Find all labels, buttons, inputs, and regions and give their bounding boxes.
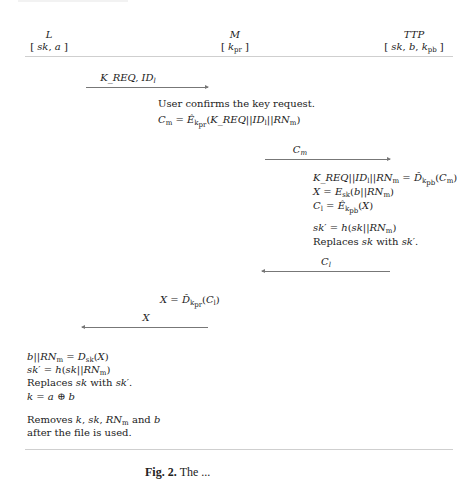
message-1-label: K_REQ, IDl xyxy=(100,72,156,83)
message-3-label: Cl xyxy=(321,256,331,267)
footer-rule xyxy=(25,449,453,450)
message-4-arrow xyxy=(82,327,208,328)
party-l: L [ sk, a ] xyxy=(30,29,68,53)
party-m-keys: [ kpr ] xyxy=(221,41,249,53)
party-ttp-name: TTP xyxy=(384,29,444,41)
message-2-label: Cm xyxy=(293,144,307,155)
l-step2-line1: Removes k, sk, RNm and b xyxy=(27,413,160,427)
ttp-step1-line2: X = Esk(b||RNm) xyxy=(313,185,394,199)
l-step1-line2: sk′ = h(sk||RNm) xyxy=(27,363,110,377)
figure-caption: Fig. 2. The ... xyxy=(145,465,210,480)
message-2-arrow xyxy=(265,159,390,160)
party-l-name: L xyxy=(30,29,68,41)
l-step1-line3: Replaces sk with sk′. xyxy=(27,376,132,390)
l-step1-line4: k = a ⊕ b xyxy=(27,390,75,404)
message-3-arrow xyxy=(262,271,390,272)
cropped-residue xyxy=(18,0,128,2)
ttp-step1-line1: K_REQ||IDl||RNm = D̂kpb(Cm) xyxy=(313,171,457,185)
header-rule xyxy=(25,56,453,57)
m-step2-formula: X = D̂kpr(Cl) xyxy=(160,293,220,307)
party-ttp: TTP [ sk, b, kpb ] xyxy=(384,29,444,53)
m-step1-formula: Cm = Êkpr(K_REQ||IDl||RNm) xyxy=(158,113,300,127)
ttp-step1-line3: Cl = Êkpb(X) xyxy=(313,199,373,213)
message-1-arrow xyxy=(86,87,208,88)
ttp-step2-line2: Replaces sk with sk′. xyxy=(313,235,418,249)
ttp-step2-line1: sk′ = h(sk||RNm) xyxy=(313,221,396,235)
m-step1-text: User confirms the key request. xyxy=(158,97,315,111)
caption-text: The ... xyxy=(180,465,211,479)
caption-label: Fig. 2. xyxy=(145,465,177,479)
party-ttp-keys: [ sk, b, kpb ] xyxy=(384,41,444,53)
party-m-name: M xyxy=(221,29,249,41)
party-l-keys: [ sk, a ] xyxy=(30,41,68,53)
message-4-label: X xyxy=(142,312,149,323)
party-m: M [ kpr ] xyxy=(221,29,249,53)
l-step1-line1: b||RNm = Dsk(X) xyxy=(27,350,109,364)
l-step2-line2: after the file is used. xyxy=(27,426,132,440)
